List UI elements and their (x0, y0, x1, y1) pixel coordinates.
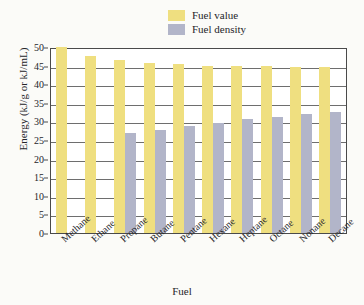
y-tick-label: 45 (34, 62, 44, 72)
bar-series-container (51, 49, 346, 233)
bar-fuel-value (85, 56, 96, 233)
bar-fuel-density (242, 119, 253, 233)
bar-group (257, 49, 286, 233)
y-tick-mark (44, 103, 48, 104)
y-tick-mark (44, 85, 48, 86)
y-tick-label: 15 (34, 173, 44, 183)
y-tick-label: 50 (34, 43, 44, 53)
y-tick-mark (44, 159, 48, 160)
bar-fuel-value (231, 66, 242, 233)
y-tick-mark (44, 141, 48, 142)
bar-group (169, 49, 198, 233)
bar-fuel-value (144, 63, 155, 233)
bar-fuel-density (213, 123, 224, 233)
chart-figure: Fuel value Fuel density 0510152025303540… (0, 0, 364, 305)
bar-fuel-value (56, 47, 67, 233)
y-tick-label: 10 (34, 192, 44, 202)
bar-fuel-density (125, 133, 136, 233)
bar-fuel-density (301, 114, 312, 233)
chart-legend: Fuel value Fuel density (168, 10, 246, 35)
bar-fuel-value (261, 66, 272, 233)
legend-label-fuel-density: Fuel density (192, 24, 246, 35)
bar-group (286, 49, 315, 233)
bar-group (111, 49, 140, 233)
bar-fuel-value (173, 64, 184, 233)
bar-group (228, 49, 257, 233)
x-axis-title: Fuel (0, 285, 364, 297)
y-tick-label: 30 (34, 117, 44, 127)
y-axis-title: Energy (kJ/g or kJ/mL) (17, 14, 29, 184)
y-tick-mark (44, 215, 48, 216)
legend-label-fuel-value: Fuel value (192, 10, 238, 21)
bar-group (52, 49, 81, 233)
y-tick-mark (44, 196, 48, 197)
bar-fuel-value (290, 67, 301, 233)
bar-fuel-value (319, 67, 330, 233)
y-tick-mark (44, 234, 48, 235)
bar-fuel-density (184, 126, 195, 233)
y-tick-label: 40 (34, 80, 44, 90)
bar-fuel-density (155, 130, 166, 233)
y-tick-mark (44, 122, 48, 123)
plot-area (50, 48, 347, 234)
y-tick-mark (44, 48, 48, 49)
y-tick-label: 35 (34, 99, 44, 109)
y-tick-label: 20 (34, 155, 44, 165)
y-tick-mark (44, 66, 48, 67)
y-tick-label: 25 (34, 136, 44, 146)
bar-group (316, 49, 345, 233)
y-tick-mark (44, 178, 48, 179)
bar-fuel-density (272, 117, 283, 233)
legend-item-fuel-density: Fuel density (168, 24, 246, 35)
bar-fuel-value (114, 60, 125, 233)
legend-item-fuel-value: Fuel value (168, 10, 246, 21)
x-axis: MethaneEthanePropaneButanePentaneHexaneH… (50, 236, 347, 282)
bar-group (198, 49, 227, 233)
bar-fuel-value (202, 66, 213, 233)
bar-fuel-density (330, 112, 341, 233)
bar-group (81, 49, 110, 233)
legend-swatch-fuel-value (168, 10, 185, 21)
bar-group (140, 49, 169, 233)
legend-swatch-fuel-density (168, 24, 185, 35)
